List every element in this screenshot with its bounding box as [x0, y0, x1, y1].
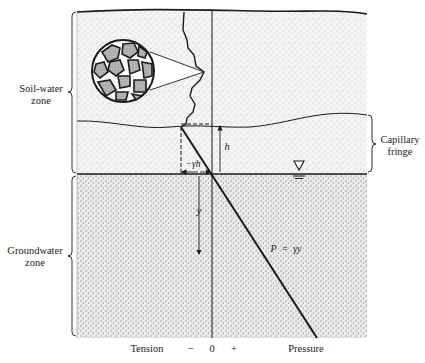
soil-water-diagram: [0, 0, 425, 363]
groundwater-zone-brace: [68, 176, 76, 336]
capillary-fringe-label: Capillary fringe: [376, 134, 424, 158]
y-label: y: [194, 205, 204, 217]
tension-axis-label: Tension: [124, 343, 170, 355]
plus-sign-label: +: [229, 343, 239, 355]
groundwater-zone-label: Groundwater zone: [2, 245, 68, 269]
h-label: h: [222, 141, 232, 153]
soil-water-zone-label: Soil-water zone: [14, 83, 68, 107]
soil-water-zone-brace: [68, 12, 76, 173]
neg-gamma-h-label: −γh: [182, 158, 204, 170]
minus-sign-label: −: [186, 343, 196, 355]
zero-label: 0: [208, 343, 216, 355]
capillary-fringe-brace: [368, 115, 376, 172]
pressure-axis-label: Pressure: [278, 343, 334, 355]
pressure-equation-label: P = γy: [266, 243, 306, 255]
groundwater-zone-area: [77, 174, 367, 338]
soil-grain-magnified-circle: [92, 40, 154, 102]
